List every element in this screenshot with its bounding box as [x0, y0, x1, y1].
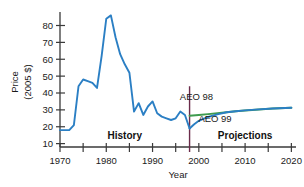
x-tick-label: 1970 [49, 155, 70, 166]
region-label-projections: Projections [218, 130, 273, 141]
x-tick-label: 2010 [235, 155, 256, 166]
y-tick-label: 80 [42, 20, 53, 31]
y-tick-label: 20 [42, 121, 53, 132]
series-annotation-aeo-99: AEO 99 [198, 113, 231, 124]
oil-price-projection-chart: 1020304050607080 19701980199020002010202… [0, 0, 304, 187]
y-tick-label: 50 [42, 71, 53, 82]
chart-canvas: 1020304050607080 19701980199020002010202… [0, 0, 304, 187]
x-axis-title: Year [168, 169, 187, 180]
y-tick-label: 40 [42, 87, 53, 98]
series-annotation-aeo-98: AEO 98 [180, 91, 213, 102]
y-tick-label: 10 [42, 138, 53, 149]
x-tick-label: 2020 [281, 155, 302, 166]
x-tick-label: 1990 [142, 155, 163, 166]
y-tick-label: 60 [42, 54, 53, 65]
y-tick-label: 70 [42, 37, 53, 48]
x-tick-label: 2000 [188, 155, 209, 166]
y-tick-label: 30 [42, 104, 53, 115]
x-tick-label: 1980 [96, 155, 117, 166]
y-axis-title-line1: Price [9, 71, 20, 93]
region-label-history: History [108, 130, 143, 141]
y-axis-title-line2: (2005 $) [22, 64, 33, 99]
